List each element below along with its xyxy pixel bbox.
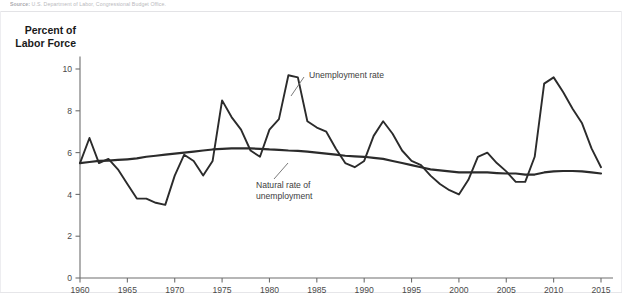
natural-rate-annotation-line2: unemployment xyxy=(256,191,313,201)
series-natural-rate xyxy=(80,148,601,174)
x-axis-tick-label: 2000 xyxy=(449,285,468,295)
series-unemployment-rate xyxy=(80,75,601,205)
x-axis-tick-label: 2005 xyxy=(497,285,516,295)
unemployment-rate-annotation: Unemployment rate xyxy=(309,70,384,80)
x-axis: 1960196519701975198019851990199520002005… xyxy=(70,278,613,295)
x-axis-tick-label: 1985 xyxy=(307,285,326,295)
x-axis-tick-label: 1995 xyxy=(402,285,421,295)
y-axis-tick-label: 2 xyxy=(67,231,72,241)
x-axis-tick-label: 1965 xyxy=(118,285,137,295)
data-series-group xyxy=(80,75,601,205)
y-axis-tick-label: 6 xyxy=(67,148,72,158)
x-axis-tick-label: 1970 xyxy=(165,285,184,295)
y-axis: 0246810 xyxy=(62,56,80,283)
x-axis-tick-label: 1975 xyxy=(213,285,232,295)
natural-rate-leader-line xyxy=(274,163,288,179)
y-axis-tick-label: 10 xyxy=(62,64,72,74)
y-axis-tick-label: 8 xyxy=(67,106,72,116)
x-axis-tick-label: 1990 xyxy=(355,285,374,295)
annotation-group: Unemployment rateNatural rate ofunemploy… xyxy=(256,70,384,201)
x-axis-tick-label: 1960 xyxy=(70,285,89,295)
y-axis-tick-label: 4 xyxy=(67,190,72,200)
x-axis-tick-label: 1980 xyxy=(260,285,279,295)
y-axis-tick-label: 0 xyxy=(67,273,72,283)
x-axis-tick-label: 2015 xyxy=(591,285,610,295)
natural-rate-annotation-line1: Natural rate of xyxy=(256,180,311,190)
line-chart-plot: 0246810 19601965197019751980198519901995… xyxy=(0,0,622,303)
chart-figure: Source: U.S. Department of Labor, Congre… xyxy=(0,0,622,303)
x-axis-tick-label: 2010 xyxy=(544,285,563,295)
